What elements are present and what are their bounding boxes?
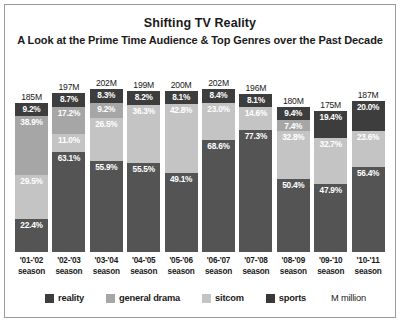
bar-segment-sports[interactable]: 56.4% <box>352 167 385 252</box>
bar-segment-label: 7.4% <box>277 121 310 131</box>
bar-segment-label: 8.3% <box>90 90 123 100</box>
x-tick-line2: season <box>50 266 87 277</box>
bar-total-label: 202M <box>90 78 123 88</box>
bar-segment-drama[interactable]: 38.9% <box>15 116 48 174</box>
bar-segment-label: 56.4% <box>352 168 385 178</box>
bar-segment-reality[interactable]: 8.7% <box>52 93 85 107</box>
legend-item-reality[interactable]: reality <box>45 293 84 303</box>
bar-segment-label: 26.5% <box>90 119 123 129</box>
bar-column[interactable]: 8.2%36.3%55.5%199M <box>127 91 160 252</box>
legend-swatch-icon <box>266 294 275 303</box>
bar-segment-sitcom[interactable]: 11.0% <box>52 134 85 151</box>
bar-segment-reality[interactable]: 19.4% <box>314 111 347 138</box>
x-tick-line2: season <box>237 266 274 277</box>
bar-segment-sports[interactable]: 47.9% <box>314 184 347 252</box>
bar-stack: 9.4%7.4%32.8%50.4% <box>277 107 310 252</box>
bar-segment-reality[interactable]: 8.2% <box>127 91 160 104</box>
x-tick-line1: '09-'10 <box>312 255 349 266</box>
bar-segment-drama[interactable]: 9.2% <box>90 103 123 118</box>
bar-total-label: 175M <box>314 100 347 110</box>
x-tick-line1: '01-'02 <box>13 255 50 266</box>
bar-segment-label: 77.3% <box>239 131 272 141</box>
x-axis-tick: '03-'04season <box>88 255 125 277</box>
bar-segment-label: 29.5% <box>15 176 48 186</box>
bar-segment-reality[interactable]: 9.4% <box>277 107 310 121</box>
bar-segment-label: 8.2% <box>127 92 160 102</box>
bar-column[interactable]: 8.3%9.2%26.5%55.9%202M <box>90 89 123 252</box>
x-tick-line1: '02-'03 <box>50 255 87 266</box>
chart-plot-area: 9.2%38.9%29.5%22.4%185M8.7%17.2%11.0%63.… <box>14 89 388 252</box>
x-tick-line1: '08-'09 <box>275 255 312 266</box>
bar-segment-label: 32.7% <box>314 139 347 149</box>
bar-segment-sitcom[interactable]: 14.6% <box>239 107 272 130</box>
x-tick-line2: season <box>200 266 237 277</box>
bar-column[interactable]: 19.4%32.7%47.9%175M <box>314 111 347 252</box>
bar-segment-drama[interactable]: 17.2% <box>52 107 85 134</box>
bar-segment-label: 8.7% <box>52 94 85 104</box>
bar-stack: 20.0%23.6%56.4% <box>352 101 385 252</box>
bar-total-label: 202M <box>202 78 235 88</box>
bar-total-label: 180M <box>277 96 310 106</box>
x-axis-tick: '01-'02season <box>13 255 50 277</box>
bar-segment-label: 32.8% <box>277 132 310 142</box>
bar-segment-reality[interactable]: 8.1% <box>239 94 272 107</box>
bar-stack: 8.3%9.2%26.5%55.9% <box>90 89 123 252</box>
bar-column[interactable]: 9.2%38.9%29.5%22.4%185M <box>15 103 48 252</box>
bar-column[interactable]: 8.1%42.8%49.1%200M <box>165 91 198 252</box>
x-axis-tick: '09-'10season <box>312 255 349 277</box>
bar-segment-sitcom[interactable]: 32.7% <box>314 138 347 184</box>
x-axis-tick: '08-'09season <box>275 255 312 277</box>
bar-total-label: 196M <box>239 83 272 93</box>
bar-segment-drama[interactable]: 7.4% <box>277 120 310 131</box>
bar-segment-label: 14.6% <box>239 108 272 118</box>
bar-segment-sports[interactable]: 22.4% <box>15 219 48 252</box>
bar-segment-sitcom[interactable]: 32.8% <box>277 131 310 179</box>
chart-titles: Shifting TV Reality A Look at the Prime … <box>5 15 395 48</box>
bar-segment-label: 22.4% <box>15 220 48 230</box>
bar-segment-label: 8.1% <box>239 95 272 105</box>
bar-segment-sports[interactable]: 63.1% <box>52 152 85 252</box>
bar-segment-sitcom[interactable]: 36.3% <box>127 105 160 163</box>
bar-segment-sitcom[interactable]: 29.5% <box>15 175 48 219</box>
bar-segment-label: 8.1% <box>165 92 198 102</box>
x-tick-line2: season <box>13 266 50 277</box>
x-axis-tick: '02-'03season <box>50 255 87 277</box>
x-tick-line1: '06-'07 <box>200 255 237 266</box>
bar-segment-label: 49.1% <box>165 174 198 184</box>
bar-segment-sports[interactable]: 77.3% <box>239 130 272 252</box>
bar-column[interactable]: 8.1%14.6%77.3%196M <box>239 94 272 252</box>
bar-segment-reality[interactable]: 9.2% <box>15 103 48 117</box>
bar-segment-reality[interactable]: 8.1% <box>165 91 198 104</box>
bar-segment-label: 50.4% <box>277 180 310 190</box>
bar-segment-sports[interactable]: 50.4% <box>277 179 310 252</box>
bar-column[interactable]: 8.4%23.0%68.6%202M <box>202 89 235 252</box>
bar-segment-reality[interactable]: 20.0% <box>352 101 385 131</box>
legend-item-sitcom[interactable]: sitcom <box>202 293 244 303</box>
bar-total-label: 197M <box>52 82 85 92</box>
bar-segment-sports[interactable]: 49.1% <box>165 173 198 252</box>
bar-column[interactable]: 9.4%7.4%32.8%50.4%180M <box>277 107 310 252</box>
x-axis-tick: '06-'07season <box>200 255 237 277</box>
legend-swatch-icon <box>45 294 54 303</box>
bar-segment-label: 20.0% <box>352 102 385 112</box>
bar-total-label: 200M <box>165 80 198 90</box>
bar-stack: 8.1%14.6%77.3% <box>239 94 272 252</box>
bar-column[interactable]: 8.7%17.2%11.0%63.1%197M <box>52 93 85 252</box>
bar-segment-reality[interactable]: 8.4% <box>202 89 235 103</box>
bar-segment-sports[interactable]: 68.6% <box>202 140 235 252</box>
bar-segment-sitcom[interactable]: 26.5% <box>90 118 123 161</box>
bar-segment-sitcom[interactable]: 42.8% <box>165 104 198 173</box>
legend-item-sports[interactable]: sports <box>266 293 306 303</box>
bar-segment-sports[interactable]: 55.5% <box>127 163 160 252</box>
bar-segment-sitcom[interactable]: 23.6% <box>352 131 385 167</box>
bar-column[interactable]: 20.0%23.6%56.4%187M <box>352 101 385 252</box>
legend-item-drama[interactable]: general drama <box>106 293 180 303</box>
bar-total-label: 187M <box>352 90 385 100</box>
x-tick-line1: '07-'08 <box>237 255 274 266</box>
bar-segment-sitcom[interactable]: 23.0% <box>202 103 235 140</box>
bar-stack: 8.2%36.3%55.5% <box>127 91 160 252</box>
bar-stack: 9.2%38.9%29.5%22.4% <box>15 103 48 252</box>
bar-segment-reality[interactable]: 8.3% <box>90 89 123 103</box>
bar-stack: 8.1%42.8%49.1% <box>165 91 198 252</box>
bar-segment-sports[interactable]: 55.9% <box>90 161 123 252</box>
